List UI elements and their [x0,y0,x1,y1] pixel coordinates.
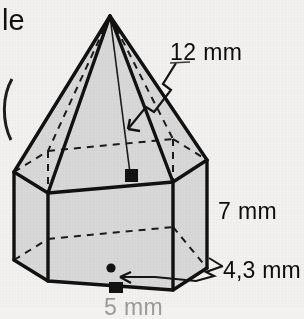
base-center-dot [106,263,115,272]
right-angle-marker-apex-foot [125,169,138,182]
text-fragment: le [2,6,25,35]
label-prism-height: 7 mm [218,200,277,223]
leader-tick-43mm [209,258,222,266]
label-apothem: 4,3 mm [223,259,301,282]
label-base-edge: 5 mm [104,296,163,319]
label-pyramid-height: 12 mm [170,41,242,64]
parenthesis-fragment [4,79,12,140]
right-angle-marker-apothem [109,282,123,293]
